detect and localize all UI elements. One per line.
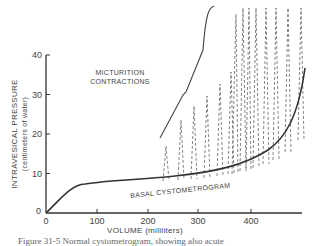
x-ticks: 0 100 200 300 400 xyxy=(43,209,258,226)
y-axis-sublabel: (centimeters of water) xyxy=(21,97,29,171)
x-tick-0: 0 xyxy=(43,216,48,226)
x-axis-label: VOLUME (mililiters) xyxy=(107,226,183,235)
figure-caption: Figure 31-5 Normal cystometrogram, showi… xyxy=(0,236,320,244)
x-tick-400: 400 xyxy=(243,216,258,226)
x-tick-300: 300 xyxy=(190,216,205,226)
y-tick-0: 0 xyxy=(36,206,41,216)
micturition-envelope-line xyxy=(160,6,214,138)
micturition-label-line2: CONTRACTIONS xyxy=(90,78,150,85)
y-ticks: 40 30 20 10 0 xyxy=(32,50,50,216)
y-tick-20: 20 xyxy=(32,129,42,139)
y-axis-label: INTRAVESICAL PRESSURE xyxy=(10,79,19,188)
micturition-label-line1: MICTURITION xyxy=(95,69,144,76)
y-tick-10: 10 xyxy=(32,169,42,179)
y-tick-40: 40 xyxy=(32,50,42,60)
x-tick-100: 100 xyxy=(89,216,104,226)
y-tick-30: 30 xyxy=(32,90,42,100)
x-tick-200: 200 xyxy=(140,216,155,226)
basal-curve-label: BASAL CYSTOMETROGRAM xyxy=(130,182,231,199)
